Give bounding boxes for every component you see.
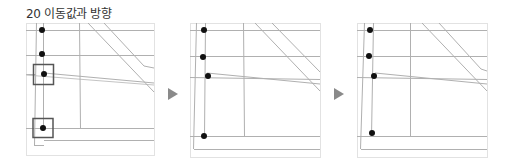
point-dot: [205, 73, 211, 79]
next-step-arrow-icon: [168, 88, 178, 100]
panel-3-lines: [357, 23, 487, 150]
next-step-arrow-icon: [334, 88, 344, 100]
diagram-panel-step-1: [0, 0, 511, 167]
point-dot: [201, 133, 207, 139]
point-dot: [366, 53, 372, 59]
panel-2-lines: [190, 23, 320, 150]
point-dot: [41, 71, 47, 77]
point-dot: [39, 51, 45, 57]
point-dot: [371, 73, 377, 79]
point-dot: [40, 125, 46, 131]
point-dot: [200, 54, 206, 60]
point-dot: [201, 27, 207, 33]
panel-3-frame: [358, 24, 488, 158]
point-dot: [367, 27, 373, 33]
panel-1-frame: [27, 24, 155, 156]
point-dot: [39, 27, 45, 33]
point-dot: [369, 130, 375, 136]
panel-2-frame: [191, 24, 321, 158]
